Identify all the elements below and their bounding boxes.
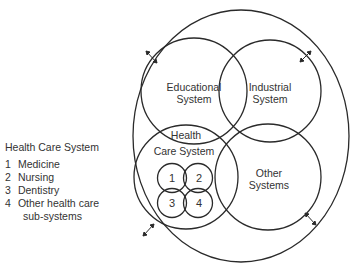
legend-item-continuation: sub-systems xyxy=(5,210,99,223)
other-systems-label-2: Systems xyxy=(249,179,289,191)
subsystem-4-label: 4 xyxy=(196,197,202,209)
educational-system-label: Educational xyxy=(167,81,222,93)
health-care-system-label-2: Care System xyxy=(154,145,215,157)
health-care-system-label: Health xyxy=(171,129,202,141)
subsystem-1-label: 1 xyxy=(169,172,175,184)
legend-item: 1 Medicine xyxy=(5,158,99,171)
legend-item: 2 Nursing xyxy=(5,171,99,184)
systems-diagram: Educational System Industrial System Hea… xyxy=(0,0,358,268)
legend-title: Health Care System xyxy=(5,141,99,154)
double-arrow-icon xyxy=(146,51,157,63)
subsystem-2-label: 2 xyxy=(196,172,202,184)
double-arrow-icon xyxy=(143,224,154,236)
subsystem-3-label: 3 xyxy=(169,197,175,209)
industrial-system-label-2: System xyxy=(252,93,287,105)
legend-item: 4 Other health care xyxy=(5,197,99,210)
legend-item: 3 Dentistry xyxy=(5,184,99,197)
educational-system-label-2: System xyxy=(176,93,211,105)
double-arrow-icon xyxy=(305,213,316,225)
other-systems-label: Other xyxy=(256,167,283,179)
industrial-system-label: Industrial xyxy=(249,81,292,93)
double-arrow-icon xyxy=(300,51,311,62)
legend: Health Care System 1 Medicine 2 Nursing … xyxy=(5,141,99,223)
